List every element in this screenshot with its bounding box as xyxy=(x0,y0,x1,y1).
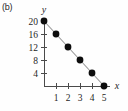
y-tick-label-4: 4 xyxy=(33,69,38,79)
data-point xyxy=(89,70,96,77)
x-tick-label-3: 3 xyxy=(78,93,83,103)
y-tick-label-8: 8 xyxy=(33,56,38,66)
x-tick-label-2: 2 xyxy=(66,93,71,103)
series-line xyxy=(44,21,104,86)
data-point xyxy=(77,57,84,64)
x-tick-label-4: 4 xyxy=(90,93,95,103)
x-axis-title: x xyxy=(114,80,120,91)
data-point xyxy=(53,31,60,38)
y-axis-title: y xyxy=(41,4,47,15)
figure-panel-b: (b) 20 16 12 8 4 1 2 3 4 5 y x xyxy=(0,0,128,111)
plot-area: 20 16 12 8 4 1 2 3 4 5 y x xyxy=(0,0,128,111)
x-tick-label-5: 5 xyxy=(102,93,107,103)
data-point xyxy=(41,18,48,25)
data-point xyxy=(101,83,108,90)
y-tick-label-12: 12 xyxy=(29,43,39,53)
y-tick-label-20: 20 xyxy=(29,17,39,27)
x-tick-label-1: 1 xyxy=(54,93,59,103)
y-tick-label-16: 16 xyxy=(29,30,39,40)
data-point xyxy=(65,44,72,51)
